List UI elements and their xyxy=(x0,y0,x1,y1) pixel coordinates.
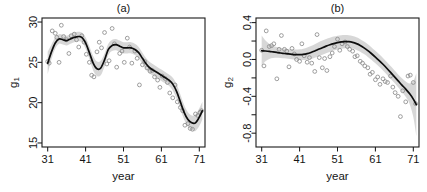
data-point xyxy=(53,31,57,35)
chart-panel-a: 314151617115202530yearg1(a) xyxy=(0,0,213,192)
data-point xyxy=(310,61,314,65)
data-point xyxy=(84,52,88,56)
data-point xyxy=(262,64,266,68)
data-point xyxy=(376,75,380,79)
x-tick-label: 61 xyxy=(155,153,167,165)
panel-title: (a) xyxy=(117,2,130,14)
data-point xyxy=(300,42,304,46)
y-tick-label: 15 xyxy=(27,137,39,149)
data-point xyxy=(320,66,324,70)
data-point xyxy=(77,45,81,49)
data-point xyxy=(323,57,327,61)
x-tick-label: 71 xyxy=(407,153,419,165)
data-point xyxy=(351,49,355,53)
data-point xyxy=(130,61,134,65)
data-point xyxy=(122,60,126,64)
data-point xyxy=(138,83,142,87)
y-tick-label: -0.8 xyxy=(241,124,253,143)
confidence-band xyxy=(48,32,203,131)
data-point xyxy=(135,56,139,60)
data-point xyxy=(156,78,160,82)
data-point xyxy=(366,66,370,70)
data-point xyxy=(378,82,382,86)
y-tick-label: -0.4 xyxy=(241,87,253,106)
data-point xyxy=(59,23,63,27)
x-tick-label: 51 xyxy=(331,153,343,165)
data-point xyxy=(399,115,403,119)
data-point xyxy=(313,70,317,74)
data-point xyxy=(97,40,101,44)
data-point xyxy=(171,96,175,100)
x-axis-title: year xyxy=(326,170,349,182)
data-point xyxy=(115,65,119,69)
data-point xyxy=(107,59,111,63)
data-point xyxy=(158,85,162,89)
x-tick-label: 61 xyxy=(369,153,381,165)
x-tick-label: 41 xyxy=(79,153,91,165)
data-point xyxy=(330,51,334,55)
data-point xyxy=(168,91,172,95)
y-tick-label: 0.4 xyxy=(241,15,253,30)
x-tick-label: 41 xyxy=(293,153,305,165)
y-tick-label: 25 xyxy=(27,56,39,68)
data-point xyxy=(95,50,99,54)
data-point xyxy=(118,52,122,56)
data-point xyxy=(264,29,268,33)
data-point xyxy=(57,60,61,64)
data-point xyxy=(391,85,395,89)
data-point xyxy=(305,60,309,64)
figure-container: 314151617115202530yearg1(a) 3141516171-0… xyxy=(0,0,427,192)
x-tick-label: 31 xyxy=(42,153,54,165)
x-tick-label: 31 xyxy=(256,153,268,165)
data-point xyxy=(280,34,284,38)
y-axis-title: g2 xyxy=(221,77,234,88)
x-tick-label: 71 xyxy=(193,153,205,165)
data-point xyxy=(325,69,329,73)
chart-panel-b: 3141516171-0.8-0.40.00.4yearg2(b) xyxy=(214,0,427,192)
data-point xyxy=(287,65,291,69)
y-tick-label: 30 xyxy=(27,16,39,28)
data-point xyxy=(404,100,408,104)
x-tick-label: 51 xyxy=(117,153,129,165)
data-point xyxy=(125,36,129,40)
data-point xyxy=(103,31,107,35)
y-tick-label: 0.0 xyxy=(241,52,253,67)
data-point xyxy=(67,52,71,56)
y-tick-label: 20 xyxy=(27,97,39,109)
data-point xyxy=(110,27,114,31)
data-point xyxy=(275,77,279,81)
data-point xyxy=(328,55,332,59)
panel-title: (b) xyxy=(331,2,344,14)
x-axis-title: year xyxy=(112,170,135,182)
data-point xyxy=(396,94,400,98)
y-axis-title: g1 xyxy=(7,77,20,88)
data-point xyxy=(317,56,321,60)
data-point xyxy=(315,33,319,37)
data-point xyxy=(100,46,104,50)
data-point xyxy=(393,91,397,95)
